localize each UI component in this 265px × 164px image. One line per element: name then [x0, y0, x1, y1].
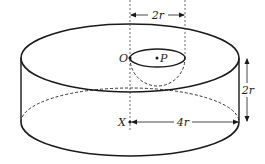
- point-o-label: O: [119, 52, 128, 65]
- point-x-label: X: [117, 116, 127, 129]
- point-o-dot: [128, 56, 131, 59]
- hole-diameter-label: 2r: [151, 9, 165, 22]
- height-label: 2r: [241, 84, 255, 97]
- cylinder-diagram: 2r 2r 4r O P X: [0, 0, 265, 164]
- point-x-dot: [128, 120, 131, 123]
- hemisphere-dashed: [130, 58, 185, 86]
- point-p-dot: [156, 57, 159, 60]
- bottom-ellipse-front: [21, 122, 239, 156]
- point-p-label: P: [159, 52, 168, 65]
- radius-label: 4r: [176, 116, 190, 129]
